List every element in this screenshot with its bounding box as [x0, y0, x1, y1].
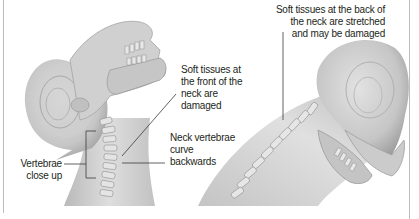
label-front-tissue-line-2: the front of the	[181, 76, 242, 88]
label-vertebrae-curve-line-2: curve	[170, 144, 235, 156]
label-front-tissue-line-1: Soft tissues at	[181, 64, 242, 76]
label-back-tissue-line-3: and may be damaged	[240, 28, 385, 40]
label-vertebrae-closeup-line-2: close up	[10, 170, 62, 182]
label-back-tissue: Soft tissues at the back of the neck are…	[240, 4, 385, 40]
label-vertebrae-closeup: Vertebrae close up	[10, 158, 62, 182]
label-front-tissue: Soft tissues at the front of the neck ar…	[181, 64, 242, 112]
label-vertebrae-closeup-line-1: Vertebrae	[10, 158, 62, 170]
label-vertebrae-curve-line-1: Neck vertebrae	[170, 132, 235, 144]
label-back-tissue-line-1: Soft tissues at the back of	[240, 4, 385, 16]
label-vertebrae-curve-line-3: backwards	[170, 156, 235, 168]
label-vertebrae-curve: Neck vertebrae curve backwards	[170, 132, 235, 168]
label-front-tissue-line-3: neck are	[181, 88, 242, 100]
label-back-tissue-line-2: the neck are stretched	[240, 16, 385, 28]
label-front-tissue-line-4: damaged	[181, 100, 242, 112]
